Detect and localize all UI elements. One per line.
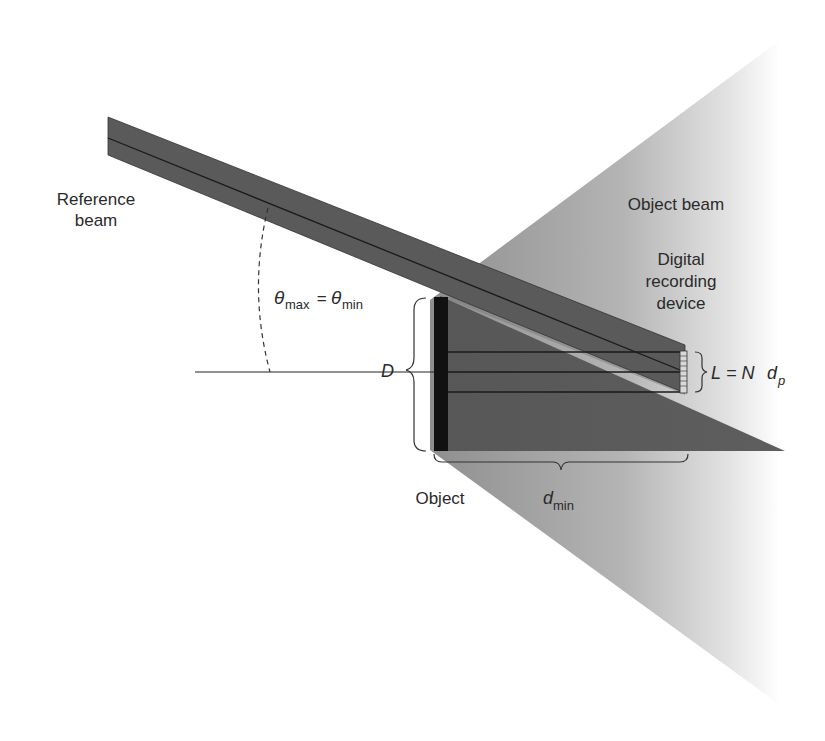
object-beam-label: Object beam bbox=[628, 195, 724, 214]
device-label-2: recording bbox=[646, 272, 717, 291]
recording-device-sensor bbox=[680, 351, 687, 393]
svg-text:L: L bbox=[711, 363, 721, 383]
object-bar bbox=[434, 297, 448, 451]
svg-text:d: d bbox=[767, 363, 778, 383]
svg-text:θ: θ bbox=[274, 287, 285, 308]
svg-text:p: p bbox=[777, 373, 785, 388]
svg-text:min: min bbox=[553, 498, 574, 513]
reference-beam-label: Reference bbox=[57, 190, 135, 209]
svg-text:min: min bbox=[342, 297, 363, 312]
brace-D bbox=[406, 298, 426, 451]
device-label-1: Digital bbox=[657, 250, 704, 269]
svg-text:= N: = N bbox=[721, 363, 756, 383]
D-label: D bbox=[381, 361, 394, 381]
theta-equation: θ max = θ min bbox=[274, 287, 363, 312]
holography-diagram: Reference beam Object beam Digital recor… bbox=[0, 0, 825, 741]
device-label-3: device bbox=[656, 294, 705, 313]
svg-text:=: = bbox=[312, 289, 331, 308]
object-label: Object bbox=[415, 489, 464, 508]
reference-beam-label-2: beam bbox=[75, 211, 118, 230]
angle-arc bbox=[258, 208, 270, 372]
svg-text:max: max bbox=[285, 297, 310, 312]
svg-text:θ: θ bbox=[331, 287, 342, 308]
